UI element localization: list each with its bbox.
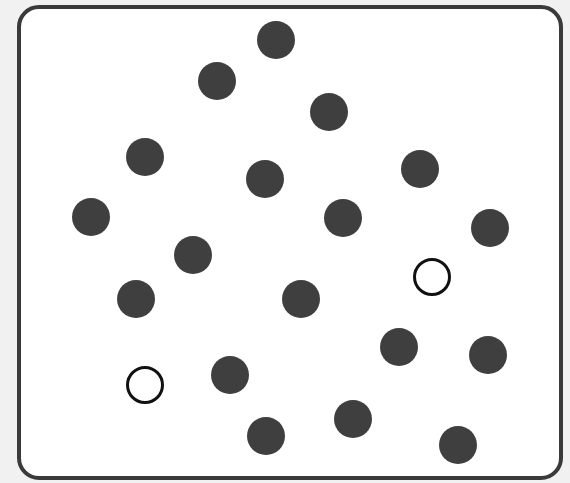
filled-circle — [247, 417, 285, 455]
filled-circle — [310, 93, 348, 131]
filled-circle — [282, 280, 320, 318]
filled-circle — [471, 209, 509, 247]
open-circle — [126, 366, 164, 404]
filled-circle — [257, 21, 295, 59]
filled-circle — [324, 199, 362, 237]
filled-circle — [198, 62, 236, 100]
filled-circle — [380, 328, 418, 366]
filled-circle — [126, 138, 164, 176]
filled-circle — [117, 280, 155, 318]
filled-circle — [334, 400, 372, 438]
filled-circle — [401, 150, 439, 188]
filled-circle — [211, 356, 249, 394]
filled-circle — [174, 236, 212, 274]
filled-circle — [246, 160, 284, 198]
open-circle — [413, 258, 451, 296]
filled-circle — [469, 336, 507, 374]
filled-circle — [72, 198, 110, 236]
filled-circle — [439, 426, 477, 464]
